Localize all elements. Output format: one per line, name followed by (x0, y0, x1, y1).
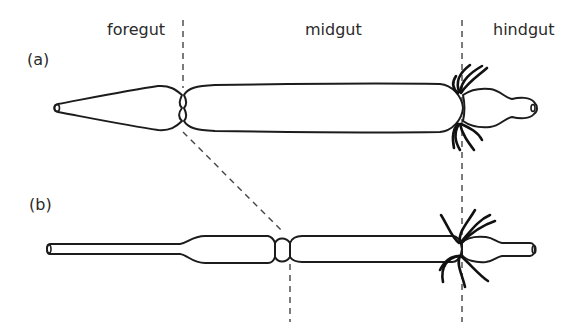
midgut-b (290, 236, 462, 262)
hindgut-a (463, 89, 537, 128)
gut-a (54, 65, 537, 150)
midgut-a (184, 84, 463, 133)
boundary-lines (183, 20, 462, 322)
foregut-midgut-correspondence-line (183, 132, 283, 232)
proventriculus-b (275, 239, 290, 262)
gut-drawing (0, 0, 580, 327)
foregut-a (54, 86, 182, 130)
hindgut-b (462, 237, 535, 262)
gut-diagram: foregut midgut hindgut (a) (b) (0, 0, 580, 327)
foregut-b (47, 236, 275, 263)
